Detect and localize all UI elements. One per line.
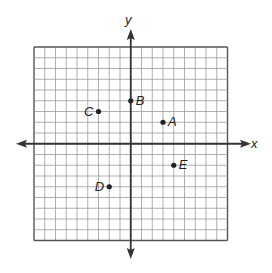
point-label-d: D	[95, 179, 104, 194]
point-e	[171, 163, 176, 168]
point-label-b: B	[136, 93, 145, 108]
point-b	[128, 98, 133, 103]
axes	[16, 29, 251, 259]
point-a	[160, 120, 165, 125]
point-d	[107, 184, 112, 189]
point-c	[96, 109, 101, 114]
point-label-c: C	[84, 104, 94, 119]
point-label-e: E	[179, 157, 188, 172]
coordinate-plane: x y ABCDE	[0, 0, 272, 273]
point-label-a: A	[167, 114, 177, 129]
y-axis-label: y	[124, 12, 133, 27]
x-axis-label: x	[250, 136, 258, 151]
